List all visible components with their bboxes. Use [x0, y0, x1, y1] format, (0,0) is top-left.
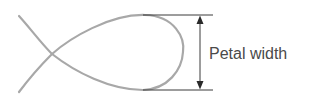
petal-width-diagram: Petal width	[0, 0, 313, 102]
dimension-label: Petal width	[209, 45, 287, 62]
arrow-down-icon	[197, 81, 204, 90]
petal-outline	[19, 15, 183, 92]
arrow-up-icon	[197, 16, 204, 25]
